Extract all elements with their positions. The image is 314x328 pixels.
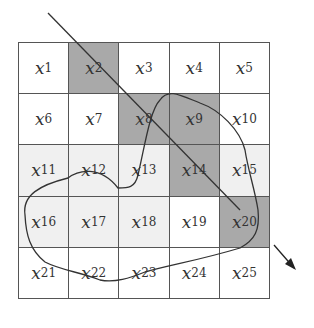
overlay-paths <box>0 0 314 328</box>
region-blob <box>25 94 259 281</box>
trajectory-line <box>48 13 240 210</box>
